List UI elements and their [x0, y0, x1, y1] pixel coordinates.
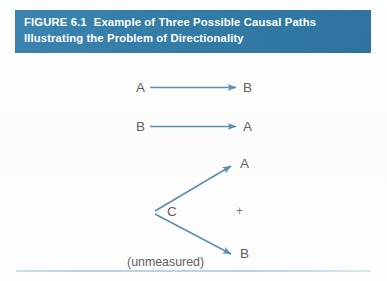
node-path2-source: B	[136, 120, 145, 134]
figure-header-bar: FIGURE 6.1Example of Three Possible Caus…	[15, 10, 371, 53]
causal-path-arrows: B --> A --> A (up) --> B (down) -->	[0, 53, 387, 281]
node-path1-target: B	[243, 81, 252, 95]
figure-bottom-rule	[16, 270, 371, 272]
figure-number: FIGURE 6.1	[24, 16, 87, 28]
node-path3-target-upper: A	[240, 157, 249, 171]
node-path1-source: A	[136, 81, 145, 95]
figure-title-line-1: Example of Three Possible Causal Paths	[94, 16, 316, 28]
arrow-c-to-b	[155, 214, 231, 254]
figure-diagram-area: B --> A --> A (up) --> B (down) --> A B …	[0, 53, 387, 281]
path3-operator: +	[236, 205, 243, 217]
figure-page: FIGURE 6.1Example of Three Possible Caus…	[0, 0, 387, 281]
node-path3-source: C	[167, 205, 177, 219]
unmeasured-note: (unmeasured)	[127, 256, 204, 268]
figure-header-line-1: FIGURE 6.1Example of Three Possible Caus…	[24, 15, 371, 31]
node-path3-target-lower: B	[240, 247, 249, 261]
node-path2-target: A	[243, 120, 252, 134]
figure-title-line-2: Illustrating the Problem of Directionali…	[24, 31, 371, 47]
